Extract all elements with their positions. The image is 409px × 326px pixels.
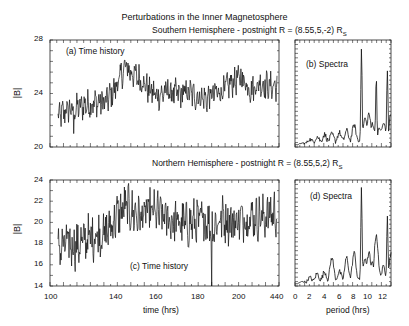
c-xlabel: time (hrs) xyxy=(143,305,179,315)
c-ytick-20: 20 xyxy=(34,217,43,226)
figure-canvas xyxy=(0,0,409,326)
a-ytick-24: 24 xyxy=(34,88,43,97)
a-ytick-28: 28 xyxy=(34,34,43,43)
panel-c-label: (c) Time history xyxy=(130,261,188,271)
c-xtick-440: 440 xyxy=(270,292,283,301)
panel-a-label: (a) Time history xyxy=(66,46,125,56)
panel-c-ylabel: |B| xyxy=(12,224,22,235)
d-xlabel: period (hrs) xyxy=(326,305,369,315)
a-ytick-20: 20 xyxy=(34,142,43,151)
c-xtick-180: 180 xyxy=(191,292,204,301)
c-xtick-160: 160 xyxy=(149,292,162,301)
panel-d-series xyxy=(295,188,391,285)
c-xtick-100: 100 xyxy=(44,292,57,301)
c-ytick-16: 16 xyxy=(34,259,43,268)
d-xtick-6: 6 xyxy=(337,292,341,301)
panel-d-label: (d) Spectra xyxy=(310,191,352,201)
c-ytick-24: 24 xyxy=(34,175,43,184)
c-ytick-22: 22 xyxy=(34,196,43,205)
panel-a-frame xyxy=(50,40,279,147)
panel-a-series xyxy=(58,60,277,134)
panel-a-ylabel: |B| xyxy=(12,88,22,99)
c-ytick-18: 18 xyxy=(34,238,43,247)
d-xtick-0: 0 xyxy=(293,292,297,301)
c-xtick-140: 140 xyxy=(109,292,122,301)
c-xtick-200: 200 xyxy=(232,292,245,301)
d-xtick-12: 12 xyxy=(378,292,387,301)
c-ytick-14: 14 xyxy=(34,281,43,290)
d-xtick-10: 10 xyxy=(363,292,372,301)
d-xtick-4: 4 xyxy=(322,292,326,301)
d-xtick-2: 2 xyxy=(307,292,311,301)
d-xtick-8: 8 xyxy=(351,292,355,301)
panel-b-label: (b) Spectra xyxy=(306,59,348,69)
